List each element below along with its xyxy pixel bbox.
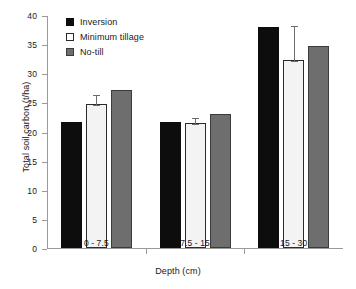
y-tick-label-30: 30 xyxy=(0,69,37,79)
y-tick-35 xyxy=(42,45,47,46)
y-tick-label-20: 20 xyxy=(0,128,37,138)
bar-minimum-0 xyxy=(86,104,107,248)
error-cap-lower-minimum-0 xyxy=(93,105,100,106)
x-category-label-1: 7.5 - 15 xyxy=(145,238,245,248)
y-tick-0 xyxy=(42,249,47,250)
legend-item-0: Inversion xyxy=(66,14,144,29)
bar-inversion-1 xyxy=(160,122,181,248)
white-square-icon xyxy=(66,33,74,41)
legend-item-2: No-till xyxy=(66,44,144,59)
bar-notill-2 xyxy=(308,46,329,248)
y-tick-label-40: 40 xyxy=(0,11,37,21)
y-tick-label-35: 35 xyxy=(0,40,37,50)
gray-square-icon xyxy=(66,48,74,56)
x-axis-title: Depth (cm) xyxy=(0,266,356,276)
bar-inversion-2 xyxy=(258,27,279,248)
bar-notill-1 xyxy=(210,114,231,248)
y-tick-20 xyxy=(42,133,47,134)
y-tick-5 xyxy=(42,220,47,221)
bar-notill-0 xyxy=(111,90,132,248)
x-tick-2 xyxy=(244,249,245,254)
y-tick-15 xyxy=(42,162,47,163)
bar-inversion-0 xyxy=(61,122,82,248)
legend-item-1: Minimum tillage xyxy=(66,29,144,44)
y-tick-30 xyxy=(42,74,47,75)
y-tick-label-10: 10 xyxy=(0,186,37,196)
y-tick-label-15: 15 xyxy=(0,157,37,167)
x-axis-line xyxy=(47,248,343,249)
black-square-icon xyxy=(66,18,74,26)
y-tick-label-25: 25 xyxy=(0,98,37,108)
error-bar-minimum-0 xyxy=(96,95,97,105)
bar-chart-figure: Total soil carbon (t/ha) 051015202530354… xyxy=(0,0,356,289)
bar-minimum-2 xyxy=(283,60,304,248)
x-category-label-0: 0 - 7.5 xyxy=(46,238,146,248)
legend-item-label-0: Inversion xyxy=(80,17,117,27)
error-cap-upper-minimum-0 xyxy=(93,95,100,96)
legend-item-label-1: Minimum tillage xyxy=(80,32,144,42)
bar-minimum-1 xyxy=(185,123,206,248)
x-tick-1 xyxy=(146,249,147,254)
y-axis-line xyxy=(47,16,48,249)
y-tick-40 xyxy=(42,16,47,17)
chart-legend: InversionMinimum tillageNo-till xyxy=(66,14,144,59)
x-category-label-2: 15 - 30 xyxy=(244,238,344,248)
y-tick-label-0: 0 xyxy=(0,244,37,254)
error-cap-upper-minimum-1 xyxy=(192,118,199,119)
error-bar-minimum-2 xyxy=(294,26,295,61)
error-cap-upper-minimum-2 xyxy=(291,26,298,27)
y-tick-label-5: 5 xyxy=(0,215,37,225)
y-tick-25 xyxy=(42,103,47,104)
error-cap-lower-minimum-1 xyxy=(192,124,199,125)
error-cap-lower-minimum-2 xyxy=(291,61,298,62)
legend-item-label-2: No-till xyxy=(80,47,104,57)
y-tick-10 xyxy=(42,191,47,192)
